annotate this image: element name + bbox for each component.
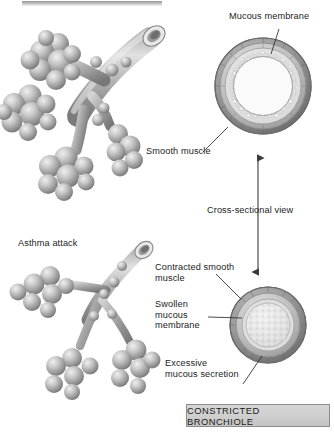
normal-bronchiole-cross-section <box>215 38 311 134</box>
label-contracted-smooth-muscle: Contracted smooth muscle <box>155 262 234 283</box>
label-swollen-mucous-membrane: Swollen mucous membrane <box>155 299 200 331</box>
label-smooth-muscle: Smooth muscle <box>146 146 211 157</box>
caption-box: CONSTRICTED BRONCHIOLE <box>186 404 330 427</box>
constricted-bronchiole-cross-section <box>230 287 306 363</box>
label-asthma-attack: Asthma attack <box>18 238 78 249</box>
figure-canvas: Mucous membrane Smooth muscle Cross-sect… <box>0 0 334 434</box>
normal-bronchiole-tree <box>0 22 169 201</box>
label-mucous-membrane: Mucous membrane <box>229 11 309 22</box>
asthma-bronchiole-tree <box>10 238 161 400</box>
label-excessive-mucous-secretion: Excessive mucous secretion <box>165 358 239 379</box>
caption-text: CONSTRICTED BRONCHIOLE <box>187 405 329 427</box>
label-cross-sectional-view: Cross-sectional view <box>207 205 293 216</box>
